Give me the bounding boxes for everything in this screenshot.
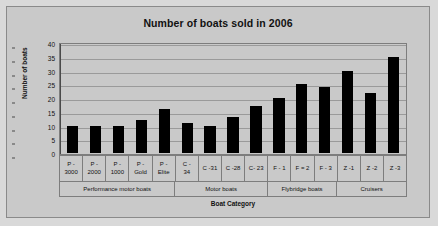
- group-label: Motor boats: [175, 182, 267, 197]
- y-tick-label: 0: [15, 151, 55, 158]
- category-label-line: Elite: [158, 169, 170, 177]
- bar[interactable]: [227, 117, 238, 153]
- category-axis-table: P -3000P -2000P -1000P -GoldP -EliteC -3…: [59, 155, 407, 197]
- category-label-row: P -3000P -2000P -1000P -GoldP -EliteC -3…: [59, 155, 407, 182]
- bar-cell: [84, 45, 107, 153]
- bar-cell: [267, 45, 290, 153]
- category-label: C -34: [176, 156, 199, 182]
- category-label-line: P -: [160, 161, 168, 169]
- category-label: C -28: [222, 156, 245, 182]
- bar[interactable]: [159, 109, 170, 153]
- bar-cell: [245, 45, 268, 153]
- bar[interactable]: [182, 123, 193, 153]
- bar-cell: [290, 45, 313, 153]
- bar-cell: [199, 45, 222, 153]
- bar[interactable]: [319, 87, 330, 153]
- category-label-line: C -: [183, 161, 191, 169]
- category-label: F = 2: [291, 156, 314, 182]
- category-label: C -31: [199, 156, 222, 182]
- category-label: P -Gold: [129, 156, 152, 182]
- category-label-line: 1000: [111, 169, 124, 177]
- category-label-line: Z -2: [367, 165, 378, 173]
- category-label: Z -3: [384, 156, 407, 182]
- category-label-line: C- 23: [249, 165, 264, 173]
- y-tick-label: 15: [15, 109, 55, 116]
- bar-series: [61, 45, 405, 153]
- category-label: Z -2: [361, 156, 384, 182]
- bar-cell: [61, 45, 84, 153]
- chart-container: Number of boats sold in 2006 Number of b…: [6, 6, 430, 218]
- y-tick-label: 25: [15, 82, 55, 89]
- category-label-line: Z -3: [390, 165, 401, 173]
- category-label-line: C -31: [203, 165, 218, 173]
- bar-cell: [153, 45, 176, 153]
- group-label: Flybridge boats: [268, 182, 338, 197]
- bar-cell: [313, 45, 336, 153]
- category-label-line: 34: [183, 169, 190, 177]
- bar[interactable]: [204, 126, 215, 154]
- category-label-line: P -: [114, 161, 122, 169]
- bar-cell: [222, 45, 245, 153]
- bar-cell: [336, 45, 359, 153]
- category-label-line: 3000: [64, 169, 77, 177]
- bar[interactable]: [342, 71, 353, 154]
- bar[interactable]: [90, 126, 101, 154]
- category-label: Z -1: [338, 156, 361, 182]
- bar[interactable]: [365, 93, 376, 154]
- group-label: Performance motor boats: [60, 182, 175, 197]
- category-label-line: Z -1: [343, 165, 354, 173]
- x-axis-title: Boat Category: [59, 200, 407, 207]
- bar[interactable]: [296, 84, 307, 153]
- group-label-row: Performance motor boatsMotor boatsFlybri…: [59, 182, 407, 197]
- bar-cell: [382, 45, 405, 153]
- category-label-line: P -: [137, 161, 145, 169]
- category-label: P -2000: [83, 156, 106, 182]
- plot-area: 4035302520151050: [59, 43, 407, 155]
- category-label: F - 3: [315, 156, 338, 182]
- bar[interactable]: [113, 126, 124, 154]
- y-tick-label: 20: [15, 96, 55, 103]
- category-label-line: 2000: [88, 169, 101, 177]
- category-label: P -3000: [60, 156, 83, 182]
- bar[interactable]: [136, 120, 147, 153]
- group-label: Cruisers: [337, 182, 407, 197]
- category-label-line: F - 3: [319, 165, 331, 173]
- bar-cell: [130, 45, 153, 153]
- bar-cell: [176, 45, 199, 153]
- category-label-line: C -28: [226, 165, 241, 173]
- y-tick-label: 35: [15, 54, 55, 61]
- category-label-line: F - 1: [273, 165, 285, 173]
- bar[interactable]: [273, 98, 284, 153]
- y-tick-label: 5: [15, 137, 55, 144]
- bar[interactable]: [250, 106, 261, 153]
- bar-cell: [107, 45, 130, 153]
- plot-frame: [59, 43, 407, 155]
- y-tick-label: 30: [15, 68, 55, 75]
- bar[interactable]: [388, 57, 399, 153]
- bar[interactable]: [67, 126, 78, 154]
- chart-title: Number of boats sold in 2006: [7, 17, 429, 29]
- category-label: C- 23: [245, 156, 268, 182]
- category-label: P -1000: [106, 156, 129, 182]
- category-label-line: P -: [67, 161, 75, 169]
- category-label-line: F = 2: [296, 165, 310, 173]
- category-label: P -Elite: [153, 156, 176, 182]
- category-label: F - 1: [268, 156, 291, 182]
- y-tick-label: 10: [15, 123, 55, 130]
- category-label-line: Gold: [134, 169, 147, 177]
- category-label-line: P -: [90, 161, 98, 169]
- y-tick-label: 40: [15, 41, 55, 48]
- bar-cell: [359, 45, 382, 153]
